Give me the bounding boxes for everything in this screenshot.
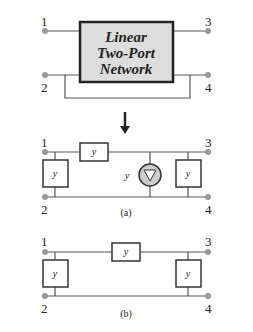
n1: 1 bbox=[41, 14, 48, 29]
a-n1: 1 bbox=[41, 135, 48, 150]
b-n2: 2 bbox=[41, 301, 48, 316]
cap-b: (b) bbox=[120, 308, 132, 320]
box-line3: Network bbox=[99, 61, 153, 77]
box-line1: Linear bbox=[104, 29, 147, 45]
a-n2: 2 bbox=[41, 202, 48, 217]
two-port-diagram: Linear Two-Port Network 1 2 3 4 1 2 3 4 … bbox=[0, 0, 253, 332]
a-n3: 3 bbox=[205, 135, 212, 150]
yi: y bbox=[52, 168, 58, 179]
box-line2: Two-Port bbox=[97, 45, 156, 61]
b-n4: 4 bbox=[205, 301, 212, 316]
b-n1: 1 bbox=[41, 234, 48, 249]
b-yo: y bbox=[185, 268, 191, 279]
n3: 3 bbox=[205, 14, 212, 29]
a-n4: 4 bbox=[205, 202, 212, 217]
n4: 4 bbox=[205, 80, 212, 95]
src: y bbox=[124, 170, 130, 181]
yr: y bbox=[91, 146, 97, 157]
cap-a: (a) bbox=[120, 207, 131, 219]
b-yr: y bbox=[123, 246, 129, 257]
n2: 2 bbox=[41, 80, 48, 95]
b-n3: 3 bbox=[205, 234, 212, 249]
b-yi: y bbox=[52, 268, 58, 279]
yo: y bbox=[185, 168, 191, 179]
